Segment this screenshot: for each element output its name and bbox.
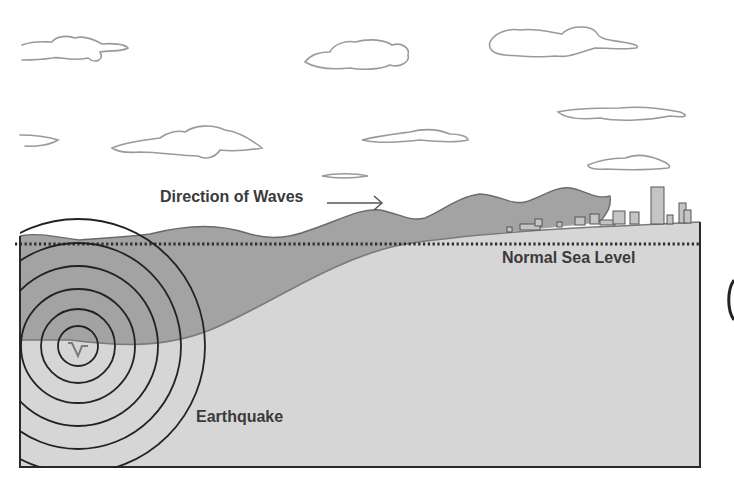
earthquake-label: Earthquake xyxy=(196,408,283,426)
cloud-1 xyxy=(22,36,128,61)
direction-arrow xyxy=(327,196,382,210)
cloud-3 xyxy=(490,27,638,57)
cloud-2 xyxy=(305,40,408,69)
tsunami-diagram xyxy=(0,0,734,492)
cloud-6 xyxy=(362,130,468,142)
cloud-5 xyxy=(112,126,262,158)
direction-of-waves-label: Direction of Waves xyxy=(160,188,303,206)
edge-fragment xyxy=(729,280,734,320)
clouds xyxy=(20,27,685,178)
cloud-9 xyxy=(322,174,368,178)
cloud-8 xyxy=(588,156,670,170)
cloud-7 xyxy=(558,107,685,120)
cloud-4 xyxy=(20,135,58,146)
normal-sea-level-label: Normal Sea Level xyxy=(502,249,635,267)
